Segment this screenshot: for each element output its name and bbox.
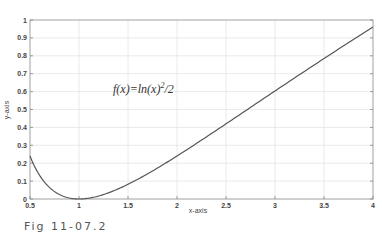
- y-tick-label: 0: [23, 196, 27, 203]
- x-tick-label: 2: [175, 202, 179, 209]
- x-tick-label: 1: [77, 202, 81, 209]
- figure-caption: Fig 11-07.2: [24, 220, 108, 233]
- grid-lines: [30, 20, 373, 199]
- y-axis-label: y-axis: [3, 100, 11, 119]
- x-tick-label: 1.5: [123, 202, 133, 209]
- x-tick-label: 3: [273, 202, 277, 209]
- y-tick-label: 0.4: [17, 124, 27, 131]
- y-tick-label: 0.2: [17, 160, 27, 167]
- x-tick-label: 3.5: [319, 202, 329, 209]
- x-tick-label: 2.5: [221, 202, 231, 209]
- y-tick-label: 0.3: [17, 142, 27, 149]
- data-series-line: [30, 27, 373, 199]
- y-tick-label: 0.9: [17, 34, 27, 41]
- chart: 0.511.522.533.54 00.10.20.30.40.50.60.70…: [0, 0, 382, 215]
- y-tick-label: 0.6: [17, 88, 27, 95]
- y-tick-label: 0.7: [17, 70, 27, 77]
- y-tick-label: 0.5: [17, 106, 27, 113]
- x-tick-label: 0.5: [25, 202, 35, 209]
- y-tick-label: 0.1: [17, 178, 27, 185]
- x-axis-label: x-axis: [189, 207, 208, 214]
- y-tick-label: 0.8: [17, 52, 27, 59]
- x-tick-label: 4: [371, 202, 375, 209]
- formula-annotation: f(x)=ln(x)2/2: [113, 81, 174, 96]
- y-tick-label: 1: [23, 17, 27, 24]
